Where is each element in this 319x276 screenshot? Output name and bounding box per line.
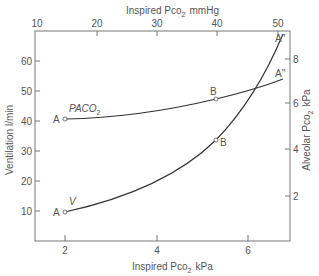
top-axis-title: Inspired Pco2mmHg (126, 5, 219, 18)
right-tick: 4 (293, 144, 299, 155)
point-b-v (214, 138, 218, 142)
label-b-v: B (220, 137, 227, 148)
label-a-paco2: A (53, 114, 60, 125)
label-b-paco2: B (210, 86, 217, 97)
left-tick: 50 (21, 86, 33, 97)
bottom-tick: 6 (245, 245, 251, 256)
point-a-v (63, 210, 67, 214)
left-tick: 10 (21, 206, 33, 217)
top-tick: 30 (151, 18, 163, 29)
right-tick: 6 (293, 98, 299, 109)
point-b-paco2 (214, 97, 218, 101)
bottom-tick: 2 (62, 245, 68, 256)
label-paco2: PACO2 (69, 103, 101, 116)
ventilation-curve (65, 34, 283, 212)
label-a-v: A (53, 207, 60, 218)
bottom-tick: 4 (154, 245, 160, 256)
top-tick: 10 (31, 18, 43, 29)
top-tick: 20 (91, 18, 103, 29)
chart: 10 20 30 40 50 Inspired Pco2mmHg 2 4 6 I… (0, 0, 319, 276)
left-tick: 30 (21, 146, 33, 157)
bottom-axis-title: Inspired Pco2kPa (132, 261, 213, 274)
plot-frame (35, 31, 290, 241)
right-tick: 2 (293, 191, 299, 202)
right-axis: 2 4 6 8 Alveolar Pco2kPa (285, 54, 314, 202)
left-tick: 20 (21, 176, 33, 187)
point-a-paco2 (63, 117, 67, 121)
left-tick: 60 (21, 56, 33, 67)
label-v: V (69, 196, 77, 207)
left-tick: 40 (21, 116, 33, 127)
right-tick: 8 (293, 54, 299, 65)
right-axis-title: Alveolar Pco2kPa (301, 89, 314, 171)
label-a2-v: A'' (275, 33, 286, 44)
left-axis-title: Ventilation l/min (4, 105, 15, 175)
top-tick: 50 (272, 18, 284, 29)
top-tick: 40 (211, 18, 223, 29)
label-a2-paco2: A'' (275, 68, 286, 79)
